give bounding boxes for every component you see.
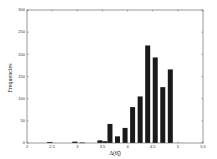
x-tick-label: 4.5 [150,144,156,149]
y-tick-label: 100 [18,96,25,101]
histogram-chart: 22.533.544.555.5050100150200250300 Frequ… [0,0,217,159]
y-tick-label: 300 [18,7,25,12]
x-tick-label: 4 [126,144,129,149]
histogram-bar [123,128,128,143]
x-tick-label: 5.5 [200,144,206,149]
histogram-bar [97,140,102,143]
histogram-bar [130,107,135,143]
x-axis-label: Δ(θ̃ⱼ) [109,150,121,157]
x-tick-label: 2.5 [49,144,55,149]
histogram-bar [107,124,112,143]
histogram-bar [115,136,120,143]
histogram-bar [145,45,150,143]
x-tick-label: 5 [177,144,180,149]
y-tick-label: 50 [21,118,26,123]
y-tick-label: 150 [18,74,25,79]
histogram-bar [160,87,165,143]
axes-frame [27,10,203,143]
x-tick-label: 2 [26,144,29,149]
x-tick-label: 3 [76,144,79,149]
plot-area: 22.533.544.555.5050100150200250300 [18,7,206,149]
histogram-bar [153,57,158,143]
y-tick-label: 250 [18,29,25,34]
histogram-bar [138,96,143,143]
x-tick-label: 3.5 [100,144,106,149]
y-tick-label: 200 [18,52,25,57]
y-axis-label: Frequencies [7,63,13,93]
histogram-bar [168,69,173,143]
